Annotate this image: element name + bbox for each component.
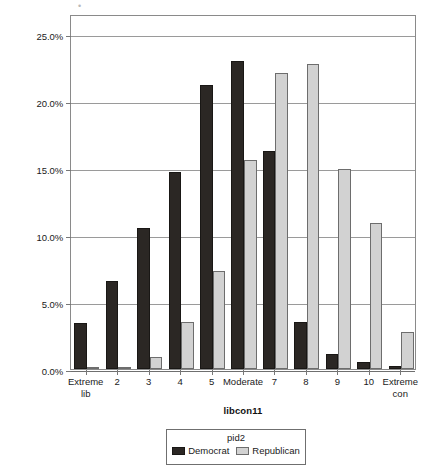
bar-republican-8	[338, 169, 351, 369]
bar-democrat-8	[326, 354, 339, 369]
legend-item-label: Republican	[252, 445, 300, 456]
bar-republican-5	[244, 160, 257, 369]
legend-item-label: Democrat	[188, 445, 229, 456]
bar-democrat-9	[357, 362, 370, 369]
legend: pid2 DemocratRepublican	[166, 429, 306, 465]
bar-republican-1	[118, 367, 131, 369]
legend-items: DemocratRepublican	[167, 445, 305, 456]
x-axis-tick	[274, 370, 275, 375]
y-axis-tick-label: 10.0%	[37, 232, 63, 243]
x-axis-title: libcon11	[70, 405, 416, 416]
x-axis-tick	[243, 370, 244, 375]
y-axis-tick-label: 5.0%	[42, 299, 63, 310]
y-axis-tick-label: 25.0%	[37, 31, 63, 42]
bar-democrat-0	[74, 323, 87, 369]
y-axis-tick-label: 0.0%	[42, 366, 63, 377]
x-axis-tick-label: 10	[364, 376, 375, 388]
x-axis-tick	[306, 370, 307, 375]
bar-republican-3	[181, 322, 194, 369]
y-axis-tick-label: 15.0%	[37, 165, 63, 176]
x-axis-tick-label: 9	[335, 376, 340, 388]
bar-republican-0	[87, 367, 100, 369]
x-axis-tick	[369, 370, 370, 375]
bar-democrat-1	[106, 281, 119, 369]
x-axis-tick	[337, 370, 338, 375]
x-axis-tick	[400, 370, 401, 375]
plot-area: 0.0%5.0%10.0%15.0%20.0%25.0%	[70, 15, 416, 370]
x-axis-tick	[149, 370, 150, 375]
light-swatch	[236, 447, 249, 455]
bar-republican-4	[213, 271, 226, 369]
x-axis-tick-label: Extreme con	[383, 376, 418, 399]
bar-democrat-7	[294, 322, 307, 369]
scan-artifact: •	[78, 1, 86, 8]
x-axis-tick-label: 2	[115, 376, 120, 388]
dark-swatch	[172, 447, 185, 455]
x-axis-tick	[86, 370, 87, 375]
bar-democrat-5	[231, 61, 244, 369]
x-axis-tick-label: 3	[146, 376, 151, 388]
x-axis-tick-label: 4	[177, 376, 182, 388]
bars-layer	[71, 16, 415, 369]
bar-republican-7	[307, 64, 320, 369]
x-axis-tick	[180, 370, 181, 375]
bar-republican-2	[150, 357, 163, 369]
legend-item-republican[interactable]: Republican	[236, 445, 300, 456]
x-axis-tick-label: 8	[303, 376, 308, 388]
bar-democrat-2	[137, 228, 150, 369]
x-axis-tick	[117, 370, 118, 375]
bar-democrat-6	[263, 151, 276, 369]
bar-republican-10	[401, 332, 414, 370]
bar-democrat-4	[200, 85, 213, 369]
y-axis-title: Percent	[0, 139, 1, 219]
bar-democrat-3	[169, 172, 182, 369]
bar-republican-6	[275, 73, 288, 369]
x-axis-tick	[212, 370, 213, 375]
x-axis-tick-label: 7	[272, 376, 277, 388]
legend-title: pid2	[167, 432, 305, 443]
legend-item-democrat[interactable]: Democrat	[172, 445, 229, 456]
bar-democrat-10	[389, 366, 402, 369]
bar-republican-9	[370, 223, 383, 369]
bar-chart: • Percent 0.0%5.0%10.0%15.0%20.0%25.0% E…	[0, 0, 431, 474]
y-axis-tick-label: 20.0%	[37, 98, 63, 109]
x-axis-tick-label: 5	[209, 376, 214, 388]
x-axis-tick-label: Moderate	[223, 376, 263, 388]
x-axis-tick-label: Extreme lib	[68, 376, 103, 399]
